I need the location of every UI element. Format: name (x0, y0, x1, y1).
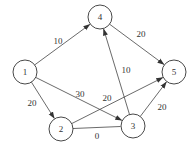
node-label: 4 (98, 12, 103, 22)
node-3: 3 (121, 114, 145, 138)
node-label: 2 (59, 124, 64, 134)
edge-weight-label: 10 (54, 36, 64, 46)
node-label: 3 (131, 121, 136, 131)
graph-diagram: 102010203020020 12345 (0, 0, 195, 147)
edge-weight-label: 20 (158, 102, 168, 112)
edge-weight-label: 0 (95, 131, 100, 141)
edge-2-3 (73, 127, 121, 129)
edge-labels-layer: 102010203020020 (28, 29, 168, 141)
node-1: 1 (13, 60, 37, 84)
node-4: 4 (88, 5, 112, 29)
node-2: 2 (49, 117, 73, 141)
node-5: 5 (162, 60, 186, 84)
edges-layer (31, 24, 166, 128)
edge-weight-label: 30 (76, 89, 86, 99)
edge-weight-label: 20 (137, 29, 147, 39)
edge-weight-label: 20 (28, 98, 38, 108)
nodes-layer: 12345 (13, 5, 186, 141)
node-label: 1 (23, 67, 28, 77)
edge-weight-label: 10 (122, 65, 132, 75)
edge-2-5 (72, 78, 163, 124)
edge-weight-label: 20 (103, 93, 113, 103)
node-label: 5 (172, 67, 177, 77)
